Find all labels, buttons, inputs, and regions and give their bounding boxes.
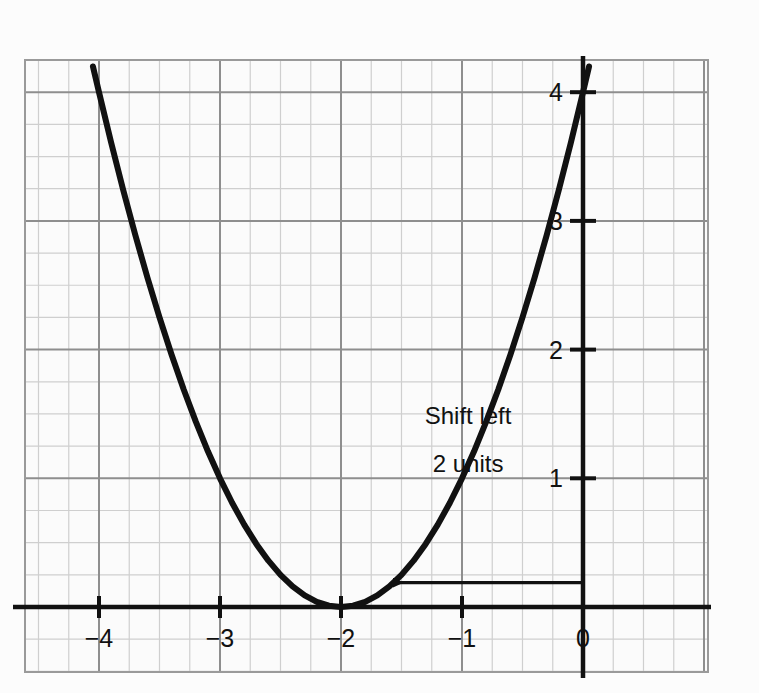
y-tick-label: 2 xyxy=(549,336,563,364)
y-tick-label: 4 xyxy=(549,78,563,106)
annotation-line-2: 2 units xyxy=(433,450,504,477)
annotation-line-1: Shift left xyxy=(425,402,512,429)
plot-area-background xyxy=(25,60,708,672)
graph-figure: −4−3−2−101234 Shift left2 units xyxy=(0,0,759,693)
x-tick-label: −1 xyxy=(448,624,477,652)
x-tick-label: −3 xyxy=(206,624,235,652)
x-tick-label: −4 xyxy=(85,624,114,652)
coordinate-plane-graph: −4−3−2−101234 Shift left2 units xyxy=(0,0,759,693)
y-tick-label: 1 xyxy=(549,464,563,492)
x-tick-label: −2 xyxy=(327,624,356,652)
x-tick-label: 0 xyxy=(576,624,590,652)
